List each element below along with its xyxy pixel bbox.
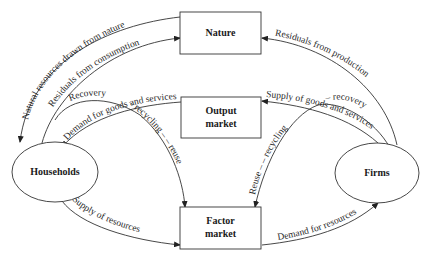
firms-node: Firms: [335, 143, 419, 203]
output-market-label-line1: Output: [205, 105, 237, 116]
firms-label: Firms: [364, 167, 390, 178]
output-market-label-line2: market: [205, 118, 237, 129]
output-market-node: Output market: [181, 97, 261, 138]
nature-label: Nature: [206, 27, 236, 38]
households-label: Households: [30, 166, 80, 177]
supply-resources-label: Supply of resources: [71, 194, 142, 234]
factor-market-label-line2: market: [205, 228, 237, 239]
factor-market-node: Factor market: [180, 207, 261, 249]
residuals-production-label: Residuals from production: [274, 28, 371, 79]
nature-node: Nature: [180, 12, 261, 54]
recycling-reuse-left-label: – recycling – – reuse: [126, 97, 185, 165]
circular-flow-diagram: Natural resources drawn from nature Resi…: [0, 0, 432, 258]
households-node: Households: [12, 142, 98, 202]
residuals-consumption-label: Residuals from consumption: [46, 37, 141, 109]
factor-market-label-line1: Factor: [206, 215, 235, 226]
